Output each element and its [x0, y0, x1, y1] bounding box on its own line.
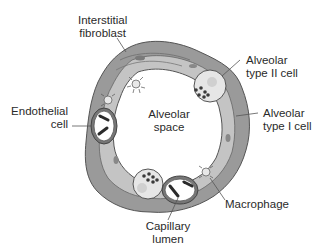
label-line: type I cell [263, 120, 312, 133]
label-line: Alveolar [246, 54, 298, 67]
label-line: type II cell [246, 67, 298, 80]
label-endothelial-cell: Endothelial cell [8, 105, 68, 131]
label-line: Alveolar [141, 108, 197, 121]
label-alveolar-type-ii-cell: Alveolar type II cell [246, 54, 298, 80]
label-alveolar-space: Alveolar space [141, 108, 197, 134]
label-line: fibroblast [78, 27, 127, 40]
label-line: Endothelial [8, 105, 68, 118]
fibroblast-nucleus [135, 56, 145, 61]
label-line: Macrophage [225, 198, 289, 211]
label-line: Alveolar [263, 107, 312, 120]
label-interstitial-fibroblast: Interstitial fibroblast [78, 14, 127, 40]
fibroblast-nucleus [189, 64, 197, 68]
label-line: Interstitial [78, 14, 127, 27]
label-line: lumen [140, 233, 196, 246]
label-alveolar-type-i-cell: Alveolar type I cell [263, 107, 312, 133]
label-line: Capillary [140, 220, 196, 233]
label-line: cell [8, 118, 68, 131]
alveolus-diagram: Interstitial fibroblast Alveolar type II… [0, 0, 321, 252]
label-capillary-lumen: Capillary lumen [140, 220, 196, 246]
label-line: space [141, 121, 197, 134]
label-macrophage: Macrophage [225, 198, 289, 211]
